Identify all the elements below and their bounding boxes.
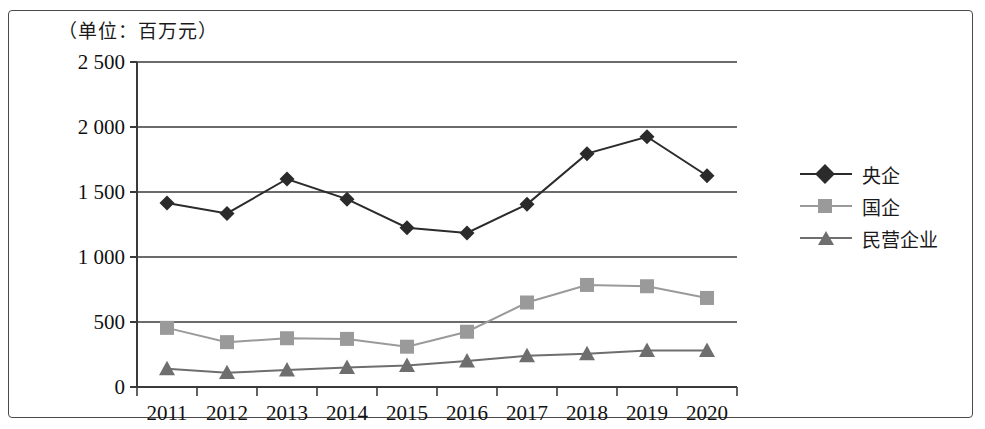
series-line	[167, 137, 707, 233]
x-axis-label: 2018	[566, 401, 608, 426]
legend-marker	[818, 231, 834, 245]
legend-marker	[818, 199, 832, 213]
chart-legend: 央企国企民营企业	[800, 158, 938, 254]
y-axis-label: 1 000	[78, 245, 125, 270]
series-layer	[159, 129, 715, 379]
y-axis-line	[130, 62, 137, 387]
data-point-square	[220, 335, 234, 349]
data-point-triangle	[159, 361, 175, 375]
data-point-square	[460, 325, 474, 339]
data-point-diamond	[280, 172, 295, 187]
data-point-diamond	[460, 225, 475, 240]
data-point-diamond	[160, 196, 175, 211]
legend-item: 央企	[800, 158, 938, 190]
data-point-diamond	[400, 220, 415, 235]
x-axis-label: 2012	[206, 401, 248, 426]
x-axis-label: 2014	[326, 401, 368, 426]
y-axis-label: 500	[94, 310, 126, 335]
data-point-square	[400, 340, 414, 354]
data-point-square	[640, 279, 654, 293]
x-axis-label: 2015	[386, 401, 428, 426]
legend-marker-diamond-icon	[800, 167, 852, 181]
data-point-square	[580, 278, 594, 292]
series-line	[167, 285, 707, 347]
data-point-square	[340, 332, 354, 346]
legend-marker-shape	[815, 164, 835, 184]
legend-marker	[818, 167, 832, 181]
data-point-square	[520, 296, 534, 310]
x-axis-label: 2019	[626, 401, 668, 426]
legend-label: 央企	[862, 161, 900, 188]
data-point-diamond	[700, 168, 715, 183]
x-axis-label: 2020	[686, 401, 728, 426]
series-line	[167, 351, 707, 373]
data-point-square	[160, 321, 174, 335]
x-axis-label: 2017	[506, 401, 548, 426]
legend-item: 国企	[800, 190, 938, 222]
x-axis-label: 2016	[446, 401, 488, 426]
y-axis-label: 1 500	[78, 180, 125, 205]
legend-label: 民营企业	[862, 225, 938, 252]
x-axis-label: 2011	[146, 401, 187, 426]
legend-label: 国企	[862, 193, 900, 220]
x-axis-label: 2013	[266, 401, 308, 426]
y-axis-label: 2 500	[78, 50, 125, 75]
x-axis-ticks	[137, 387, 737, 396]
data-point-square	[280, 331, 294, 345]
legend-item: 民营企业	[800, 222, 938, 254]
legend-marker-shape	[818, 199, 832, 213]
y-axis-label: 0	[115, 375, 126, 400]
legend-marker-triangle-icon	[800, 231, 852, 245]
y-axis-label: 2 000	[78, 115, 125, 140]
legend-marker-square-icon	[800, 199, 852, 213]
data-point-diamond	[220, 206, 235, 221]
legend-marker-shape	[818, 231, 834, 245]
data-point-square	[700, 291, 714, 305]
data-point-diamond	[340, 192, 355, 207]
data-point-diamond	[640, 129, 655, 144]
